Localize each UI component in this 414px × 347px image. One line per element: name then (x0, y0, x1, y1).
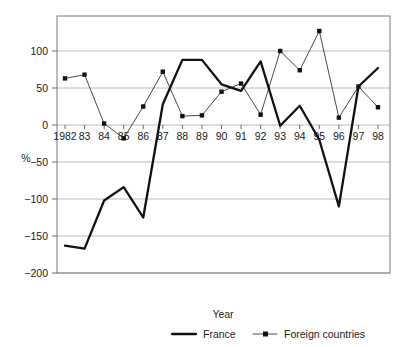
ytick-label-minus100: −100 (24, 193, 48, 205)
ytick-label-50: 50 (36, 82, 48, 94)
xtick-label: 96 (333, 130, 345, 142)
ytick-label-0: 0 (42, 119, 48, 131)
ytick-label-minus50: −50 (30, 156, 48, 168)
data-point-marker (161, 70, 165, 74)
legend-label-foreign-countries: Foreign countries (284, 328, 365, 340)
chart-figure: 100 50 0 −50 −100 −150 −200 % 1982838485… (0, 0, 414, 347)
ytick-label-100: 100 (30, 45, 48, 57)
legend-label-france: France (203, 328, 236, 340)
xtick-label: 92 (255, 130, 267, 142)
data-point-marker (200, 113, 204, 117)
data-point-marker (63, 76, 67, 80)
data-point-marker (258, 112, 262, 116)
ytick-label-minus200: −200 (24, 267, 48, 279)
xtick-label: 90 (216, 130, 228, 142)
xtick-label: 84 (98, 130, 110, 142)
data-point-marker (298, 68, 302, 72)
xtick-label: 89 (196, 130, 208, 142)
x-axis-title: Year (212, 308, 234, 320)
legend-marker-foreign-countries (263, 332, 268, 337)
line-chart: 100 50 0 −50 −100 −150 −200 % 1982838485… (0, 0, 414, 347)
y-axis-ticks (52, 51, 57, 273)
data-point-marker (180, 114, 184, 118)
xtick-label: 94 (294, 130, 306, 142)
data-point-marker (317, 29, 321, 33)
xtick-label: 88 (177, 130, 189, 142)
xtick-label: 98 (372, 130, 384, 142)
data-point-marker (239, 81, 243, 85)
data-point-marker (278, 49, 282, 53)
ytick-label-minus150: −150 (24, 230, 48, 242)
xtick-label: 93 (274, 130, 286, 142)
data-point-marker (337, 115, 341, 119)
xtick-label: 1982 (53, 130, 77, 142)
data-point-marker (82, 72, 86, 76)
xtick-label: 83 (79, 130, 91, 142)
data-point-marker (102, 121, 106, 125)
data-point-marker (376, 105, 380, 109)
xtick-label: 91 (235, 130, 247, 142)
y-axis-unit-label: % (21, 152, 30, 164)
plot-frame (57, 16, 390, 273)
xtick-label: 97 (353, 130, 365, 142)
xtick-label: 86 (137, 130, 149, 142)
data-point-marker (141, 104, 145, 108)
data-point-marker (219, 90, 223, 94)
data-point-marker (121, 136, 125, 140)
legend: France Foreign countries (172, 328, 365, 340)
x-axis-tick-labels: 198283848586878889909192939495969798 (53, 130, 384, 142)
